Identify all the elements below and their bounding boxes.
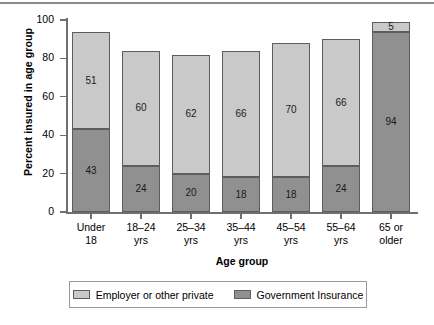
category-label-line: yrs: [166, 234, 216, 247]
bar-value-label: 62: [173, 108, 209, 119]
bar-segment-government[interactable]: 18: [222, 177, 260, 212]
bar-segment-private[interactable]: 60: [122, 51, 160, 166]
category-label-line: yrs: [216, 234, 266, 247]
bar-value-label: 18: [223, 189, 259, 200]
x-axis-title: Age group: [66, 255, 418, 267]
bar-group[interactable]: 945: [372, 20, 410, 212]
category-label-line: yrs: [316, 234, 366, 247]
bar-segment-private[interactable]: 70: [272, 43, 310, 177]
x-axis-tick: [140, 213, 141, 219]
category-label-line: 55–64: [316, 221, 366, 234]
bar-value-label: 51: [73, 75, 109, 86]
x-axis-category-label: 35–44yrs: [216, 221, 266, 247]
y-axis-tick-label: 80: [14, 51, 54, 63]
legend-label: Employer or other private: [96, 289, 214, 301]
bar-value-label: 60: [123, 102, 159, 113]
legend-label: Government Insurance: [257, 289, 364, 301]
x-axis-category-label: Under18: [66, 221, 116, 247]
bar-group[interactable]: 1866: [222, 20, 260, 212]
legend-entry[interactable]: Employer or other private: [73, 289, 214, 301]
x-axis-category-label: 65 orolder: [366, 221, 416, 247]
legend-swatch-icon: [234, 290, 251, 299]
bar-segment-government[interactable]: 18: [272, 177, 310, 212]
bar-value-label: 70: [273, 104, 309, 115]
bar-value-label: 18: [273, 189, 309, 200]
bar-group[interactable]: 1870: [272, 20, 310, 212]
x-axis-tick: [340, 213, 341, 219]
category-label-line: Under: [66, 221, 116, 234]
x-axis-tick: [290, 213, 291, 219]
bar-value-label: 43: [73, 165, 109, 176]
x-axis-tick: [90, 213, 91, 219]
bar-value-label: 5: [373, 21, 409, 32]
y-axis-tick-label: 100: [14, 13, 54, 25]
chart-legend: Employer or other privateGovernment Insu…: [69, 281, 367, 308]
x-axis-category-label: 18–24yrs: [116, 221, 166, 247]
category-label-line: 25–34: [166, 221, 216, 234]
x-axis-tick: [240, 213, 241, 219]
bar-group[interactable]: 4351: [72, 20, 110, 212]
category-label-line: older: [366, 234, 416, 247]
bar-group[interactable]: 2062: [172, 20, 210, 212]
x-axis-category-label: 45–54yrs: [266, 221, 316, 247]
x-axis-tick: [190, 213, 191, 219]
x-axis-category-label: 55–64yrs: [316, 221, 366, 247]
bar-group[interactable]: 2466: [322, 20, 360, 212]
category-label-line: yrs: [116, 234, 166, 247]
category-label-line: 18: [66, 234, 116, 247]
y-axis-tick-label: 60: [14, 90, 54, 102]
legend-swatch-icon: [73, 290, 90, 299]
category-label-line: 65 or: [366, 221, 416, 234]
bar-segment-private[interactable]: 66: [322, 39, 360, 166]
figure-top-rule: [0, 2, 434, 4]
bar-segment-government[interactable]: 24: [122, 166, 160, 212]
x-axis-category-label: 25–34yrs: [166, 221, 216, 247]
bar-segment-government[interactable]: 24: [322, 166, 360, 212]
bar-segment-private[interactable]: 62: [172, 55, 210, 174]
bar-segment-government[interactable]: 20: [172, 174, 210, 212]
x-axis-tick: [390, 213, 391, 219]
legend-entry[interactable]: Government Insurance: [234, 289, 364, 301]
bar-segment-government[interactable]: 43: [72, 129, 110, 212]
y-axis-tick-label: 40: [14, 128, 54, 140]
plot-area: 435124602062186618702466945: [66, 20, 416, 212]
bar-value-label: 66: [323, 97, 359, 108]
bar-group[interactable]: 2460: [122, 20, 160, 212]
x-axis-line: [66, 212, 418, 214]
bar-segment-private[interactable]: 66: [222, 51, 260, 178]
category-label-line: yrs: [266, 234, 316, 247]
y-axis-tick-label: 20: [14, 167, 54, 179]
category-label-line: 35–44: [216, 221, 266, 234]
bar-value-label: 20: [173, 187, 209, 198]
bar-value-label: 24: [123, 183, 159, 194]
bar-value-label: 24: [323, 183, 359, 194]
bar-segment-private[interactable]: 51: [72, 32, 110, 130]
bar-segment-private[interactable]: 5: [372, 22, 410, 32]
y-axis-tick-label: 0: [14, 205, 54, 217]
bar-value-label: 94: [373, 116, 409, 127]
category-label-line: 18–24: [116, 221, 166, 234]
bar-value-label: 66: [223, 108, 259, 119]
category-label-line: 45–54: [266, 221, 316, 234]
bar-segment-government[interactable]: 94: [372, 32, 410, 212]
stacked-bar-chart-figure: Percent insured in age group 02040608010…: [0, 0, 434, 325]
